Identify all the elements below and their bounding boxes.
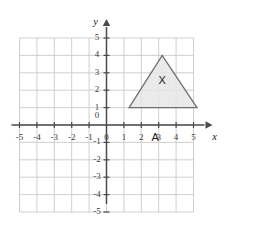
y-tick-label: -4 — [93, 189, 101, 199]
x-axis-tick-labels: -5-4-3-2-1012345 — [16, 132, 197, 142]
plotted-shapes: X — [129, 55, 197, 107]
y-tick-label: 1 — [95, 102, 100, 112]
y-tick-label: -5 — [93, 206, 101, 216]
y-tick-label: 5 — [95, 32, 100, 42]
x-tick-label: 1 — [122, 132, 127, 142]
x-tick-label: -1 — [85, 132, 93, 142]
plot-annotations: A — [152, 131, 160, 143]
x-tick-label: 2 — [139, 132, 144, 142]
coordinate-plane-svg: -5-4-3-2-1012345 -5-4-3-2-1012345 X A x … — [0, 0, 256, 247]
x-tick-label: -4 — [33, 132, 41, 142]
x-axis-label: x — [211, 131, 217, 142]
y-tick-label: -3 — [93, 171, 101, 181]
y-axis-arrow — [103, 19, 110, 26]
y-axis-label: y — [92, 16, 98, 27]
x-axis-arrow — [206, 121, 213, 128]
y-tick-label: -1 — [93, 136, 101, 146]
y-tick-label: 4 — [95, 49, 100, 59]
x-tick-label: -2 — [68, 132, 76, 142]
x-tick-label: -3 — [51, 132, 59, 142]
coordinate-plane-figure: -5-4-3-2-1012345 -5-4-3-2-1012345 X A x … — [0, 0, 256, 247]
axes — [12, 19, 213, 204]
y-axis-tick-labels: -5-4-3-2-1012345 — [93, 32, 101, 216]
triangle-x-label: X — [159, 74, 167, 86]
y-tick-label: 3 — [95, 67, 100, 77]
x-tick-label: 0 — [104, 132, 109, 142]
x-tick-label: 4 — [174, 132, 179, 142]
x-tick-label: 5 — [191, 132, 196, 142]
y-tick-label: -2 — [93, 154, 101, 164]
y-tick-label: 2 — [95, 84, 100, 94]
point-a: A — [152, 131, 160, 143]
x-tick-label: -5 — [16, 132, 24, 142]
